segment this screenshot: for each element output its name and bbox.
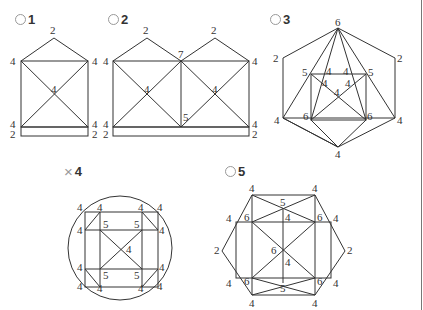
svg-text:4: 4 bbox=[144, 83, 150, 95]
figure-2-number: 2 bbox=[121, 12, 128, 27]
svg-text:2: 2 bbox=[397, 52, 403, 64]
svg-text:4: 4 bbox=[312, 182, 318, 194]
circle-mark-icon bbox=[225, 166, 236, 177]
svg-text:2: 2 bbox=[214, 244, 220, 256]
svg-text:4: 4 bbox=[138, 201, 144, 213]
svg-text:5: 5 bbox=[134, 218, 140, 230]
svg-text:4: 4 bbox=[157, 201, 163, 213]
svg-text:4: 4 bbox=[312, 297, 318, 309]
svg-text:4: 4 bbox=[345, 77, 351, 89]
svg-text:5: 5 bbox=[280, 196, 286, 208]
svg-text:4: 4 bbox=[249, 182, 255, 194]
page-edge-divider bbox=[421, 0, 422, 310]
svg-text:5: 5 bbox=[103, 218, 109, 230]
figure-5-number: 5 bbox=[238, 164, 245, 179]
figure-4-number: 4 bbox=[75, 164, 82, 179]
svg-text:4: 4 bbox=[212, 83, 218, 95]
figure-5-graph bbox=[222, 195, 345, 295]
svg-text:4: 4 bbox=[285, 256, 291, 268]
svg-text:4: 4 bbox=[226, 277, 232, 289]
svg-text:2: 2 bbox=[273, 52, 279, 64]
svg-text:4: 4 bbox=[97, 201, 103, 213]
diagram-stage: 2 4 4 4 4 4 2 2 2 2 4 7 4 4 4 5 4 4 2 2 … bbox=[0, 0, 423, 310]
svg-text:2: 2 bbox=[92, 128, 98, 140]
svg-text:4: 4 bbox=[77, 224, 83, 236]
svg-text:4: 4 bbox=[77, 280, 83, 292]
svg-text:4: 4 bbox=[103, 55, 109, 67]
svg-text:4: 4 bbox=[77, 201, 83, 213]
circle-mark-icon bbox=[108, 14, 119, 25]
figure-1-number: 1 bbox=[28, 12, 35, 27]
svg-text:4: 4 bbox=[138, 282, 144, 294]
svg-text:7: 7 bbox=[178, 48, 184, 60]
svg-text:2: 2 bbox=[347, 244, 353, 256]
circle-mark-icon bbox=[15, 14, 26, 25]
svg-text:4: 4 bbox=[10, 55, 16, 67]
svg-text:4: 4 bbox=[249, 297, 255, 309]
figure-2-label: 2 bbox=[108, 12, 128, 27]
figure-1-vertex-labels: 2 4 4 4 4 4 2 2 bbox=[10, 24, 98, 140]
svg-text:4: 4 bbox=[159, 224, 165, 236]
svg-text:2: 2 bbox=[143, 24, 149, 36]
svg-text:6: 6 bbox=[335, 16, 341, 28]
cross-mark-icon: × bbox=[64, 164, 73, 179]
svg-text:4: 4 bbox=[226, 212, 232, 224]
svg-text:4: 4 bbox=[252, 55, 258, 67]
svg-text:5: 5 bbox=[368, 66, 374, 78]
svg-text:4: 4 bbox=[126, 243, 132, 255]
svg-text:6: 6 bbox=[303, 110, 309, 122]
svg-text:2: 2 bbox=[50, 24, 56, 36]
figure-4-label: × 4 bbox=[64, 164, 82, 179]
svg-text:4: 4 bbox=[322, 77, 328, 89]
svg-text:2: 2 bbox=[211, 24, 217, 36]
svg-text:4: 4 bbox=[335, 148, 341, 160]
svg-text:6: 6 bbox=[367, 110, 373, 122]
figure-4-vertex-labels: 4 4 4 4 4 5 5 4 4 4 5 5 4 4 4 4 4 bbox=[77, 201, 165, 294]
svg-text:5: 5 bbox=[302, 66, 308, 78]
circle-mark-icon bbox=[270, 14, 281, 25]
svg-text:2: 2 bbox=[10, 128, 16, 140]
svg-text:4: 4 bbox=[326, 65, 332, 77]
svg-text:2: 2 bbox=[103, 128, 109, 140]
svg-text:4: 4 bbox=[157, 280, 163, 292]
svg-text:6: 6 bbox=[244, 275, 250, 287]
svg-text:4: 4 bbox=[397, 114, 403, 126]
svg-text:4: 4 bbox=[343, 65, 349, 77]
svg-text:4: 4 bbox=[159, 261, 165, 273]
svg-text:4: 4 bbox=[334, 86, 340, 98]
svg-text:6: 6 bbox=[317, 275, 323, 287]
svg-text:6: 6 bbox=[317, 211, 323, 223]
figure-3-vertex-labels: 6 2 2 5 5 4 4 4 4 4 6 6 4 4 4 bbox=[273, 16, 403, 160]
svg-text:5: 5 bbox=[280, 282, 286, 294]
svg-text:4: 4 bbox=[274, 114, 280, 126]
svg-text:4: 4 bbox=[333, 212, 339, 224]
diagram-canvas: 2 4 4 4 4 4 2 2 2 2 4 7 4 4 4 5 4 4 2 2 … bbox=[0, 0, 423, 310]
svg-text:4: 4 bbox=[97, 282, 103, 294]
svg-text:5: 5 bbox=[183, 111, 189, 123]
svg-text:4: 4 bbox=[333, 277, 339, 289]
svg-text:2: 2 bbox=[252, 128, 258, 140]
svg-text:4: 4 bbox=[77, 261, 83, 273]
svg-text:4: 4 bbox=[92, 55, 98, 67]
figure-1-label: 1 bbox=[15, 12, 35, 27]
svg-text:6: 6 bbox=[271, 244, 277, 256]
svg-text:4: 4 bbox=[51, 83, 57, 95]
figure-3-number: 3 bbox=[283, 12, 290, 27]
figure-5-label: 5 bbox=[225, 164, 245, 179]
svg-text:5: 5 bbox=[103, 269, 109, 281]
figure-3-label: 3 bbox=[270, 12, 290, 27]
svg-text:5: 5 bbox=[134, 269, 140, 281]
svg-text:6: 6 bbox=[244, 211, 250, 223]
svg-text:4: 4 bbox=[285, 211, 291, 223]
